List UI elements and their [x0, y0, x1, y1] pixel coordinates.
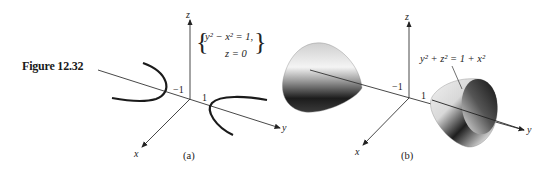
panel-b: z y x −1 1 y² + z² = 1 + x² (b) — [282, 11, 532, 162]
caption-a: (a) — [183, 150, 195, 162]
equation-a-line2: z = 0 — [224, 48, 247, 59]
caption-b: (b) — [401, 150, 414, 162]
hyperboloid-sheet-left — [282, 43, 362, 112]
tick-one-a: 1 — [202, 92, 207, 103]
x-label-a: x — [133, 148, 139, 159]
y-label-b: y — [526, 124, 532, 135]
right-brace: } — [254, 27, 266, 56]
y-label-a: y — [281, 122, 287, 133]
equation-b: y² + z² = 1 + x² — [419, 53, 486, 64]
x-label-b: x — [354, 146, 360, 157]
x-axis-a — [142, 99, 190, 147]
equation-a-line1: y² − x² = 1, — [204, 31, 253, 42]
tick-neg-one-a: −1 — [173, 84, 184, 95]
panel-a: z y x −1 1 { } y² − x² = 1, z = 0 (a) — [98, 9, 287, 162]
x-axis-b — [363, 98, 409, 145]
hyperbola-branch-left — [112, 63, 166, 101]
tick-neg-one-b: −1 — [392, 81, 403, 92]
tick-one-b: 1 — [421, 90, 426, 101]
hyperbola-branch-right — [210, 97, 267, 135]
z-label-b: z — [404, 11, 409, 22]
z-label-a: z — [185, 9, 190, 20]
